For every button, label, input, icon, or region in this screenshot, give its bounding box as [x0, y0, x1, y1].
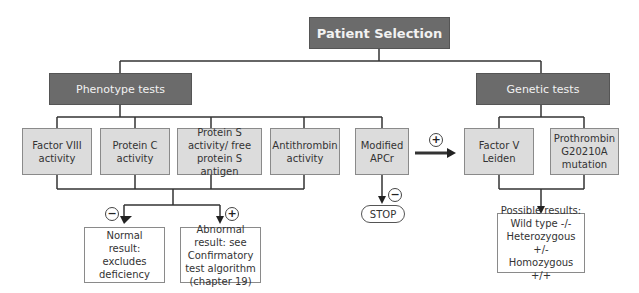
prothrombin-mutation-box: Prothrombin G20210A mutation [550, 128, 619, 175]
factor-viii-activity-box: Factor VIII activity [22, 128, 92, 175]
homozygous-line: Homozygous +/+ [498, 256, 584, 282]
genetic-tests-label: Genetic tests [507, 83, 580, 96]
genetic-tests-box: Genetic tests [476, 73, 610, 105]
normal-result-label: Normal result: excludes deficiency [93, 229, 156, 281]
possible-results-heading: Possible results: [501, 204, 581, 217]
positive-sign-icon: + [225, 207, 239, 221]
negative-sign-icon: − [388, 188, 402, 202]
factor-viii-label: Factor VIII activity [29, 139, 85, 165]
stop-label: STOP [370, 209, 396, 220]
antithrombin-activity-box: Antithrombin activity [270, 128, 340, 175]
protein-c-activity-box: Protein C activity [100, 128, 170, 175]
prothrombin-label: Prothrombin G20210A mutation [554, 132, 615, 171]
phenotype-tests-box: Phenotype tests [49, 73, 192, 105]
patient-selection-label: Patient Selection [317, 26, 442, 41]
positive-sign-icon: + [429, 133, 443, 147]
factor-v-leiden-box: Factor V Leiden [464, 128, 534, 175]
normal-result-box: Normal result: excludes deficiency [84, 227, 165, 283]
antithrombin-label: Antithrombin activity [272, 139, 337, 165]
abnormal-result-label: Abnormal result: see Confirmatory test a… [184, 223, 257, 288]
protein-s-label: Protein S activity/ free protein S antig… [181, 126, 258, 178]
modified-apcr-box: Modified APCr [355, 128, 409, 175]
possible-results-box: Possible results: Wild type -/- Heterozy… [497, 213, 585, 273]
wild-type-line: Wild type -/- [511, 217, 572, 230]
modified-apcr-label: Modified APCr [361, 139, 404, 165]
heterozygous-line: Heterozygous +/- [498, 230, 584, 256]
factor-v-leiden-label: Factor V Leiden [473, 139, 525, 165]
protein-c-label: Protein C activity [109, 139, 161, 165]
stop-terminal: STOP [361, 205, 405, 223]
patient-selection-box: Patient Selection [309, 17, 450, 49]
abnormal-result-box: Abnormal result: see Confirmatory test a… [180, 227, 261, 283]
phenotype-tests-label: Phenotype tests [76, 83, 165, 96]
negative-sign-icon: − [105, 207, 119, 221]
protein-s-box: Protein S activity/ free protein S antig… [177, 128, 262, 175]
